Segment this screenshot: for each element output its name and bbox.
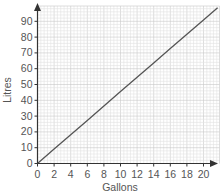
y-axis-title: Litres bbox=[1, 77, 13, 103]
x-tick-label: 18 bbox=[181, 168, 193, 180]
y-tick-label: 30 bbox=[21, 110, 33, 122]
x-tick-label: 8 bbox=[101, 168, 107, 180]
y-tick-label: 90 bbox=[21, 15, 33, 27]
y-tick-label: 80 bbox=[21, 31, 33, 43]
y-tick-label: 60 bbox=[21, 62, 33, 74]
y-tick-label: 0 bbox=[27, 157, 33, 169]
x-tick-label: 14 bbox=[148, 168, 160, 180]
x-tick-label: 20 bbox=[198, 168, 210, 180]
y-axis-arrow-icon bbox=[34, 3, 41, 11]
x-tick-label: 12 bbox=[131, 168, 143, 180]
x-tick-label: 0 bbox=[35, 168, 41, 180]
line-chart: 024681012141618200102030405060708090 Gal… bbox=[0, 0, 220, 195]
y-tick-label: 40 bbox=[21, 94, 33, 106]
y-tick-label: 70 bbox=[21, 46, 33, 58]
x-tick-label: 4 bbox=[68, 168, 74, 180]
y-tick-label: 50 bbox=[21, 78, 33, 90]
y-tick-label: 10 bbox=[21, 141, 33, 153]
x-axis-title: Gallons bbox=[102, 181, 138, 193]
y-tick-label: 20 bbox=[21, 125, 33, 137]
x-tick-label: 16 bbox=[164, 168, 176, 180]
x-tick-label: 10 bbox=[115, 168, 127, 180]
x-tick-label: 6 bbox=[84, 168, 90, 180]
x-tick-label: 2 bbox=[51, 168, 57, 180]
